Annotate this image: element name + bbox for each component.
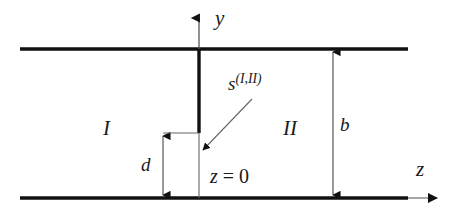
source-label: s(I,II)	[228, 72, 262, 93]
y-axis-label: y	[215, 8, 224, 29]
origin-label-equals: =	[218, 165, 239, 187]
source-leader-line	[203, 99, 252, 150]
origin-label-variable: z	[210, 165, 218, 187]
z-axis-label: z	[416, 159, 424, 180]
origin-label-value: 0	[239, 165, 249, 187]
dimension-b-label: b	[340, 115, 350, 134]
origin-label: z = 0	[210, 166, 249, 186]
region-one-label: I	[103, 118, 110, 139]
waveguide-diagram: y z I II b d z = 0 s(I,II)	[0, 0, 457, 212]
source-superscript: (I,II)	[235, 71, 261, 86]
dimension-d-label: d	[141, 155, 151, 174]
region-two-label: II	[283, 118, 297, 139]
